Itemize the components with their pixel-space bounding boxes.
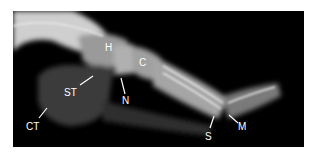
label-st: ST xyxy=(64,88,77,98)
label-h: H xyxy=(105,43,112,53)
metatarsals xyxy=(153,56,228,119)
label-n: N xyxy=(122,96,129,106)
foot-bones xyxy=(13,11,304,147)
label-c: C xyxy=(139,58,146,68)
xray-image xyxy=(13,11,304,147)
label-m: M xyxy=(238,122,246,132)
navicular xyxy=(113,44,135,75)
label-ct: CT xyxy=(26,122,39,132)
label-s: S xyxy=(205,132,212,142)
arrow-n xyxy=(121,78,125,94)
